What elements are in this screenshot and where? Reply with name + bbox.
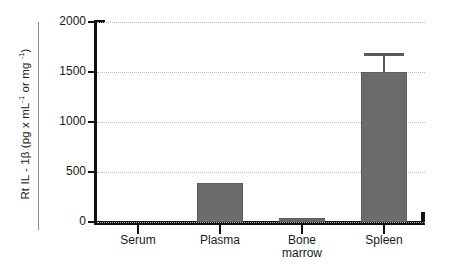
- gridline: [97, 22, 425, 23]
- y-axis-title-tail: ): [19, 48, 31, 52]
- error-bar-cap: [364, 53, 404, 56]
- y-axis-title-main: Rt IL - 1β (pg x mL: [19, 103, 31, 200]
- y-axis-title-text: Rt IL - 1β (pg x mL-1 or mg -1): [19, 48, 31, 199]
- y-axis-tick: [88, 121, 96, 123]
- bar: [197, 183, 243, 222]
- bar: [361, 72, 407, 222]
- x-axis-tick-label-line1: Spleen: [339, 234, 429, 247]
- x-axis-tick-label: Serum: [93, 234, 183, 247]
- x-axis-tick-label-line2: marrow: [257, 247, 347, 260]
- y-axis-tick-label: 0: [40, 214, 86, 228]
- y-axis-title-rule: [38, 22, 39, 230]
- y-axis-tick: [88, 221, 96, 223]
- y-axis-tick-label: 500: [40, 164, 86, 178]
- y-axis-tick: [88, 171, 96, 173]
- y-axis-tick-label: 1500: [40, 64, 86, 78]
- y-axis-tick-label: 1000: [40, 114, 86, 128]
- x-axis-tick-label: Bonemarrow: [257, 234, 347, 260]
- chart-figure: Rt IL - 1β (pg x mL-1 or mg -1) 05001000…: [0, 0, 465, 272]
- x-axis-tick-label-line1: Plasma: [175, 234, 265, 247]
- y-axis-title-mid: or mg: [19, 59, 31, 96]
- y-axis-tick: [88, 71, 96, 73]
- x-axis-tick-label: Plasma: [175, 234, 265, 247]
- x-axis-tick-label: Spleen: [339, 234, 429, 247]
- y-axis-tick-label: 2000: [40, 14, 86, 28]
- y-axis-title-sup2: -1: [17, 52, 26, 59]
- x-axis-tick-label-line1: Serum: [93, 234, 183, 247]
- bar: [279, 218, 325, 222]
- y-axis-tick: [88, 21, 96, 23]
- y-axis-title: Rt IL - 1β (pg x mL-1 or mg -1): [12, 18, 38, 230]
- gridline: [97, 222, 425, 223]
- y-axis-title-sup1: -1: [17, 96, 26, 103]
